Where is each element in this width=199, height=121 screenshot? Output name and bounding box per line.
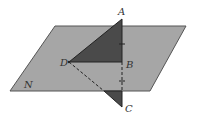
label-c: C [125,103,133,114]
triangle-below-plane [104,91,122,107]
label-b: B [125,59,133,70]
label-a: A [117,6,125,17]
label-plane-n: N [23,79,34,90]
label-d: D [59,57,68,68]
geometry-diagram: A B C D N [0,0,199,121]
point-d [68,61,70,63]
